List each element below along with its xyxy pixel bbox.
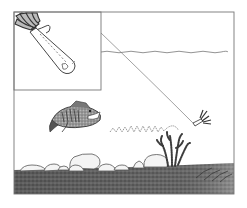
zigzag-retrieve-path [110, 126, 178, 132]
jig-lure [193, 110, 211, 126]
fishing-illustration [0, 0, 247, 208]
jig-closeup-inset [14, 12, 101, 90]
largemouth-bass [49, 101, 100, 132]
